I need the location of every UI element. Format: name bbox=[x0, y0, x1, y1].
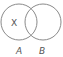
venn-diagram: X A B bbox=[0, 0, 63, 57]
set-b-label: B bbox=[39, 46, 45, 56]
region-x-label: X bbox=[11, 18, 17, 28]
set-b-circle bbox=[25, 4, 61, 40]
set-a-circle bbox=[1, 4, 37, 40]
set-a-label: A bbox=[15, 46, 22, 56]
